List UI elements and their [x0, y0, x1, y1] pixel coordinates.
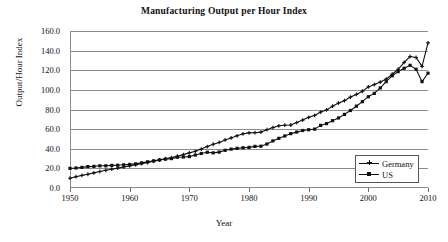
y-axis-tick-labels: 0.020.040.060.080.0100.0120.0140.0160.0	[0, 31, 66, 188]
legend-label-us: US	[382, 170, 393, 180]
legend-marker-us	[359, 170, 379, 180]
chart-title: Manufacturing Output per Hour Index	[0, 6, 448, 16]
legend-item-us[interactable]: US	[359, 169, 414, 180]
x-tick-label: 1970	[181, 194, 198, 203]
x-axis-label: Year	[0, 218, 448, 228]
y-tick-label: 60.0	[45, 125, 60, 134]
x-tick-label: 1980	[241, 194, 258, 203]
x-tick-label: 1950	[62, 194, 79, 203]
x-tick	[428, 188, 429, 192]
y-tick-label: 80.0	[45, 106, 60, 115]
y-tick-label: 120.0	[41, 66, 60, 75]
legend-label-germany: Germany	[382, 159, 414, 169]
y-tick-label: 140.0	[41, 47, 60, 56]
x-tick-label: 2010	[420, 194, 437, 203]
x-tick-label: 2000	[360, 194, 377, 203]
chart-legend[interactable]: Germany US	[355, 155, 419, 183]
x-axis-tick-labels: 1950196019701980199020002010	[70, 192, 428, 206]
legend-marker-germany	[359, 159, 379, 169]
y-tick-label: 100.0	[41, 86, 60, 95]
x-tick-label: 1960	[121, 194, 138, 203]
x-tick-label: 1990	[300, 194, 317, 203]
y-tick-label: 20.0	[45, 164, 60, 173]
chart-page: Manufacturing Output per Hour Index Outp…	[0, 0, 448, 242]
y-tick-label: 0.0	[49, 184, 60, 193]
legend-item-germany[interactable]: Germany	[359, 158, 414, 169]
y-tick-label: 160.0	[41, 27, 60, 36]
y-tick-label: 40.0	[45, 145, 60, 154]
